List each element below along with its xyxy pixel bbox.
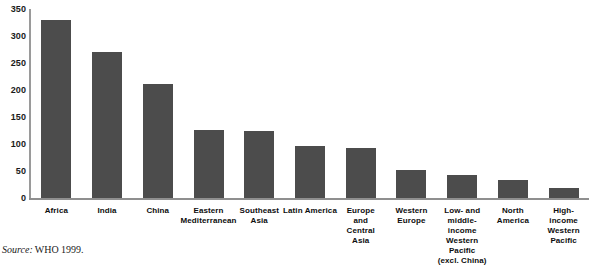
bar xyxy=(143,84,173,198)
bar-slot xyxy=(396,9,426,198)
bar xyxy=(92,52,122,198)
x-axis-baseline xyxy=(29,198,589,200)
bar-slot xyxy=(498,9,528,198)
bar-slot xyxy=(41,9,71,198)
y-tick-label: 0 xyxy=(0,194,26,203)
x-axis-category-labels: AfricaIndiaChinaEasternMediterraneanSout… xyxy=(31,206,589,264)
bar xyxy=(41,20,71,198)
plot-area: 350300250200150100500 xyxy=(0,0,592,206)
bar xyxy=(295,146,325,198)
bar-slot xyxy=(143,9,173,198)
x-tick-label: High-incomeWesternPacific xyxy=(531,206,592,246)
y-axis-tick-labels: 350300250200150100500 xyxy=(0,0,26,206)
y-tick-label: 150 xyxy=(0,113,26,122)
y-tick-label: 50 xyxy=(0,167,26,176)
bar xyxy=(244,131,274,198)
y-tick-label: 100 xyxy=(0,140,26,149)
bar xyxy=(194,130,224,198)
bar-slot xyxy=(244,9,274,198)
y-tick-label: 300 xyxy=(0,32,26,41)
source-value: WHO 1999. xyxy=(35,244,84,255)
y-tick-label: 200 xyxy=(0,86,26,95)
bar xyxy=(549,188,579,198)
y-tick-label: 350 xyxy=(0,5,26,14)
bar-slot xyxy=(92,9,122,198)
y-tick-label: 250 xyxy=(0,59,26,68)
source-label: Source: xyxy=(2,244,33,255)
bar xyxy=(498,180,528,198)
bar-slot xyxy=(194,9,224,198)
bar-series xyxy=(31,9,589,198)
bar-slot xyxy=(447,9,477,198)
source-note: Source:WHO 1999. xyxy=(2,244,84,255)
bar xyxy=(396,170,426,198)
bar-slot xyxy=(295,9,325,198)
bar xyxy=(447,175,477,198)
bar-slot xyxy=(549,9,579,198)
bar xyxy=(346,148,376,198)
bar-slot xyxy=(346,9,376,198)
